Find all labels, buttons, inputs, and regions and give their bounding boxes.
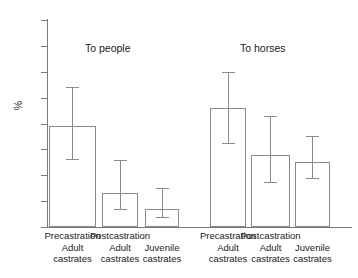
bar-chart: % 01020304050607080 To people To horses … bbox=[0, 0, 358, 278]
y-axis-tick: 60 bbox=[0, 72, 47, 73]
y-tick-mark bbox=[41, 72, 47, 73]
y-axis-line bbox=[47, 19, 48, 228]
error-bar bbox=[49, 87, 96, 159]
y-tick-mark bbox=[41, 175, 47, 176]
error-bar-cap-top bbox=[156, 188, 169, 189]
x-axis-line bbox=[47, 227, 352, 228]
y-tick-mark bbox=[41, 20, 47, 21]
error-bar bbox=[295, 136, 330, 179]
error-bar-whisker bbox=[162, 188, 163, 218]
x-axis-label: Juvenilecastrates bbox=[273, 230, 353, 265]
y-axis-tick: 10 bbox=[0, 201, 47, 202]
y-axis-tick: 40 bbox=[0, 124, 47, 125]
error-bar-cap-top bbox=[66, 87, 79, 88]
error-bar-cap-bottom bbox=[306, 178, 319, 179]
x-axis-label-line: castrates bbox=[273, 253, 353, 265]
error-bar-whisker bbox=[72, 87, 73, 159]
error-bar-whisker bbox=[120, 160, 121, 210]
error-bar-cap-bottom bbox=[114, 209, 127, 210]
y-tick-mark bbox=[41, 124, 47, 125]
y-axis-tick: 80 bbox=[0, 20, 47, 21]
y-axis-tick: 30 bbox=[0, 149, 47, 150]
error-bar-cap-bottom bbox=[156, 217, 169, 218]
y-axis-tick: 0 bbox=[0, 227, 47, 228]
group-title-to-people: To people bbox=[85, 42, 131, 54]
error-bar-cap-bottom bbox=[264, 182, 277, 183]
error-bar bbox=[210, 72, 246, 144]
y-tick-mark bbox=[41, 201, 47, 202]
y-axis-tick: 70 bbox=[0, 46, 47, 47]
group-title-to-horses: To horses bbox=[240, 42, 286, 54]
y-axis-title: % bbox=[13, 101, 24, 110]
y-tick-mark bbox=[41, 227, 47, 228]
y-axis-tick: 50 bbox=[0, 98, 47, 99]
y-tick-mark bbox=[41, 46, 47, 47]
error-bar-cap-top bbox=[114, 160, 127, 161]
error-bar-whisker bbox=[228, 72, 229, 144]
error-bar-cap-top bbox=[306, 136, 319, 137]
error-bar bbox=[251, 116, 290, 183]
error-bar-cap-top bbox=[222, 72, 235, 73]
y-tick-mark bbox=[41, 149, 47, 150]
error-bar-cap-bottom bbox=[222, 143, 235, 144]
error-bar-cap-top bbox=[264, 116, 277, 117]
y-tick-mark bbox=[41, 98, 47, 99]
error-bar bbox=[102, 160, 138, 210]
error-bar-whisker bbox=[270, 116, 271, 183]
error-bar-cap-bottom bbox=[66, 159, 79, 160]
error-bar-whisker bbox=[312, 136, 313, 179]
y-axis-tick: 20 bbox=[0, 175, 47, 176]
x-axis-label-line: Juvenile bbox=[273, 242, 353, 254]
error-bar bbox=[145, 188, 179, 218]
